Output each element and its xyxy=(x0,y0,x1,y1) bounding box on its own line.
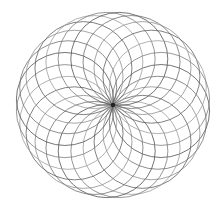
artwork-canvas xyxy=(0,0,221,210)
circle-rosette-drawing xyxy=(0,0,221,210)
center-point xyxy=(111,103,115,107)
